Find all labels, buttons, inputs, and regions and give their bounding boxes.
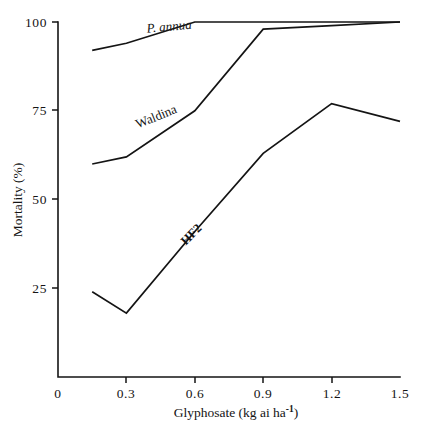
y-tick-label-25: 25 — [32, 281, 47, 296]
x-axis-title: Glyphosate (kg ai ha-1) — [174, 404, 299, 420]
series-annotations: P. annua Waldina HF2 — [133, 17, 204, 248]
x-axis-ticks — [126, 377, 332, 383]
series-line-waldina — [92, 22, 400, 164]
chart-figure: 100 75 50 25 0 0.3 0.6 0.9 1.2 1.5 Glyph… — [0, 0, 427, 424]
mortality-vs-glyphosate-line-chart: 100 75 50 25 0 0.3 0.6 0.9 1.2 1.5 Glyph… — [0, 0, 427, 424]
y-axis-ticks — [52, 22, 58, 288]
x-tick-label-0-9: 0.9 — [254, 386, 273, 401]
x-tick-label-1-5: 1.5 — [391, 386, 410, 401]
y-tick-label-75: 75 — [32, 103, 47, 118]
y-tick-label-100: 100 — [25, 15, 47, 30]
y-axis-title: Mortality (%) — [10, 163, 25, 238]
x-axis-title-base: Glyphosate (kg ai ha — [174, 405, 286, 420]
x-tick-label-0: 0 — [54, 386, 61, 401]
series-label-p-annua: P. annua — [145, 17, 193, 36]
series-lines — [92, 22, 400, 313]
x-tick-label-0-6: 0.6 — [186, 386, 205, 401]
x-axis-title-tail: ) — [294, 405, 299, 420]
x-axis-tick-labels: 0 0.3 0.6 0.9 1.2 1.5 — [54, 386, 409, 401]
x-tick-label-1-2: 1.2 — [323, 386, 342, 401]
chart-axes — [58, 22, 400, 377]
y-axis-tick-labels: 100 75 50 25 — [25, 15, 47, 296]
y-tick-label-50: 50 — [32, 192, 47, 207]
x-tick-label-0-3: 0.3 — [117, 386, 136, 401]
series-line-hf2 — [92, 104, 400, 313]
series-line-p-annua — [92, 22, 400, 50]
